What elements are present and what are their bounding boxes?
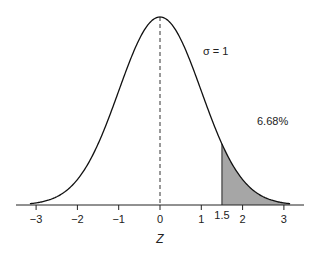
percent-annotation: 6.68% bbox=[257, 115, 288, 127]
sigma-annotation: σ = 1 bbox=[203, 45, 228, 57]
x-tick-label: 3 bbox=[281, 213, 287, 225]
normal-distribution-chart: −3−2−101231.5 σ = 1 6.68% Z bbox=[0, 0, 320, 254]
x-tick-label: 1 bbox=[198, 213, 204, 225]
x-tick-label: 0 bbox=[157, 213, 163, 225]
x-tick-label: −3 bbox=[30, 213, 43, 225]
x-tick-label: −2 bbox=[71, 213, 84, 225]
x-tick-label: −1 bbox=[112, 213, 125, 225]
x-axis-ticks: −3−2−101231.5 bbox=[30, 205, 287, 225]
x-axis-label: Z bbox=[155, 232, 164, 246]
shaded-tail-area bbox=[222, 144, 290, 205]
x-tick-label-threshold: 1.5 bbox=[214, 209, 229, 221]
x-tick-label: 2 bbox=[240, 213, 246, 225]
